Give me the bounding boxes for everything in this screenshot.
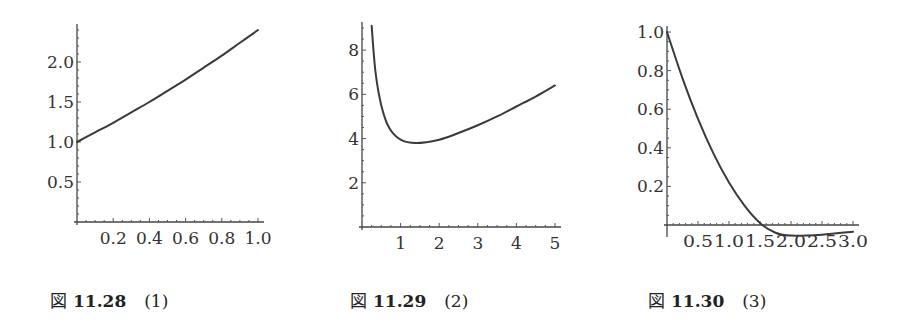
x-tick-label: 1.0 bbox=[244, 228, 271, 248]
caption-number: 11.29 bbox=[373, 291, 426, 311]
chart-fig-11-28: 0.20.40.60.81.00.51.01.52.0 bbox=[47, 24, 272, 248]
caption-fig-char: 図 bbox=[50, 291, 67, 311]
x-tick-label: 1 bbox=[395, 233, 406, 253]
chart-fig-11-29: 123452468 bbox=[348, 22, 561, 253]
y-tick-label: 1.5 bbox=[47, 92, 74, 112]
x-tick-label: 0.4 bbox=[136, 228, 163, 248]
y-tick-label: 0.8 bbox=[637, 61, 664, 81]
y-tick-label: 0.2 bbox=[637, 176, 664, 196]
y-tick-label: 2 bbox=[348, 173, 359, 193]
y-tick-label: 0.4 bbox=[637, 138, 664, 158]
y-tick-label: 8 bbox=[348, 40, 359, 60]
caption-number: 11.30 bbox=[671, 291, 724, 311]
x-tick-label: 5 bbox=[550, 233, 561, 253]
y-tick-label: 2.0 bbox=[47, 52, 74, 72]
x-tick-label: 2 bbox=[434, 233, 445, 253]
caption-fig-char: 図 bbox=[648, 291, 665, 311]
x-tick-label: 4 bbox=[511, 233, 522, 253]
figure-canvas: 0.20.40.60.81.00.51.01.52.0 123452468 0.… bbox=[0, 0, 906, 327]
caption-fig-11-30: 図11.30(3) bbox=[648, 287, 766, 312]
x-tick-label: 1.5 bbox=[745, 231, 775, 251]
y-tick-label: 0.6 bbox=[637, 99, 664, 119]
caption-number: 11.28 bbox=[73, 291, 126, 311]
caption-fig-11-29: 図11.29(2) bbox=[350, 287, 468, 312]
caption-sublabel: (2) bbox=[444, 291, 468, 311]
x-tick-label: 0.5 bbox=[683, 231, 713, 251]
caption-sublabel: (3) bbox=[742, 291, 766, 311]
x-tick-label: 1.0 bbox=[714, 231, 744, 251]
caption-sublabel: (1) bbox=[144, 291, 168, 311]
data-curve bbox=[77, 30, 258, 142]
data-curve bbox=[372, 26, 555, 143]
x-tick-label: 0.6 bbox=[172, 228, 199, 248]
caption-fig-char: 図 bbox=[350, 291, 367, 311]
caption-fig-11-28: 図11.28(1) bbox=[50, 287, 168, 312]
y-tick-label: 1.0 bbox=[47, 132, 74, 152]
chart-fig-11-30: 0.51.01.52.02.53.00.20.40.60.81.0 bbox=[637, 22, 868, 251]
x-tick-label: 0.2 bbox=[100, 228, 127, 248]
y-tick-label: 6 bbox=[348, 84, 359, 104]
y-tick-label: 4 bbox=[348, 129, 359, 149]
data-curve bbox=[667, 32, 853, 236]
x-tick-label: 3 bbox=[472, 233, 483, 253]
x-tick-label: 3.0 bbox=[838, 231, 868, 251]
x-tick-label: 0.8 bbox=[208, 228, 235, 248]
y-tick-label: 1.0 bbox=[637, 22, 664, 42]
y-tick-label: 0.5 bbox=[47, 172, 74, 192]
